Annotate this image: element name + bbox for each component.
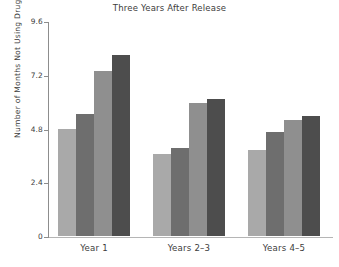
- bar: [153, 154, 171, 236]
- bar-group: [153, 21, 225, 236]
- x-axis-category-label: Years 4–5: [248, 243, 320, 253]
- bar: [76, 114, 94, 236]
- y-tick-mark: [44, 130, 49, 131]
- bar: [266, 132, 284, 236]
- x-axis-category-label: Year 1: [58, 243, 130, 253]
- chart-title: Three Years After Release: [0, 3, 339, 13]
- bar: [112, 55, 130, 236]
- bar-group: [248, 21, 320, 236]
- y-tick-label: 0: [38, 232, 43, 241]
- bar: [171, 148, 189, 236]
- y-tick-label: 2.4: [31, 178, 43, 187]
- bar: [207, 99, 225, 236]
- y-axis-title: Number of Months Not Using Drugs: [13, 0, 22, 147]
- bar-chart-figure: Three Years After Release Number of Mont…: [0, 0, 339, 267]
- plot-area: 02.44.87.29.6 Year 1Years 2–3Years 4–5: [48, 22, 333, 237]
- bar-group: [58, 21, 130, 236]
- y-tick-label: 9.6: [31, 17, 43, 26]
- x-axis-category-label: Years 2–3: [153, 243, 225, 253]
- y-tick-mark: [44, 183, 49, 184]
- y-tick-mark: [44, 76, 49, 77]
- bar: [248, 150, 266, 236]
- bar: [284, 120, 302, 236]
- y-tick-mark: [44, 237, 49, 238]
- y-tick-label: 7.2: [31, 71, 43, 80]
- x-axis-line: [48, 237, 333, 238]
- y-tick-mark: [44, 22, 49, 23]
- bar: [94, 71, 112, 236]
- bar: [302, 116, 320, 236]
- bar: [189, 103, 207, 236]
- bar: [58, 129, 76, 237]
- y-tick-label: 4.8: [31, 125, 43, 134]
